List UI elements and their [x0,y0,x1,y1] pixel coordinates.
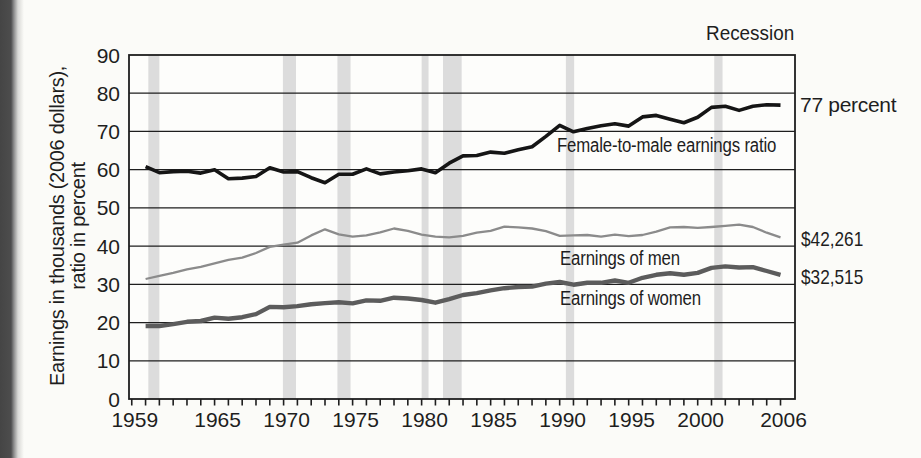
recession-band [337,55,350,399]
y-axis-tick-label: 60 [97,158,120,181]
women-end-value-label: $32,515 [801,266,863,287]
scanned-page: 0102030405060708090195919651970197519801… [0,0,921,458]
y-axis-tick-label: 70 [97,120,120,143]
x-axis-tick-label: 1980 [401,408,448,431]
y-axis-tick-label: 90 [97,44,120,67]
y-axis-tick-label: 80 [97,82,120,105]
women-series-label: Earnings of women [560,288,701,308]
x-axis-tick-label: 1965 [194,408,241,431]
y-axis-tick-label: 50 [97,196,120,219]
x-axis-tick-label: 1970 [263,408,310,431]
earnings-line-chart: 0102030405060708090195919651970197519801… [0,0,921,458]
y-axis-tick-label: 30 [97,273,120,296]
x-axis-tick-label: 1995 [608,408,655,431]
recession-band [148,55,159,399]
recession-band [443,55,462,399]
recession-band [566,55,574,399]
recession-band [283,55,296,399]
y-axis-tick-label: 10 [97,349,120,372]
y-axis-title: Earnings in thousands (2006 dollars), ra… [47,26,89,426]
y-axis-tick-label: 20 [97,311,120,334]
y-axis-title-line2: ratio in percent [68,26,89,426]
x-axis-tick-label: 1959 [111,408,158,431]
y-axis-tick-label: 40 [97,235,120,258]
men-end-value-label: $42,261 [801,228,863,249]
x-axis-tick-label: 1990 [539,408,586,431]
x-axis-tick-label: 2006 [760,408,807,431]
men-series-label: Earnings of men [560,248,680,268]
x-axis-tick-label: 2000 [677,408,724,431]
recession-band [422,55,429,399]
ratio-series-label: Female-to-male earnings ratio [557,135,776,155]
y-axis-title-line1: Earnings in thousands (2006 dollars), [47,26,68,426]
ratio-end-value-label: 77 percent [800,94,896,115]
recession-legend-label: Recession [706,22,794,43]
x-axis-tick-label: 1985 [470,408,517,431]
x-axis-tick-label: 1975 [332,408,379,431]
